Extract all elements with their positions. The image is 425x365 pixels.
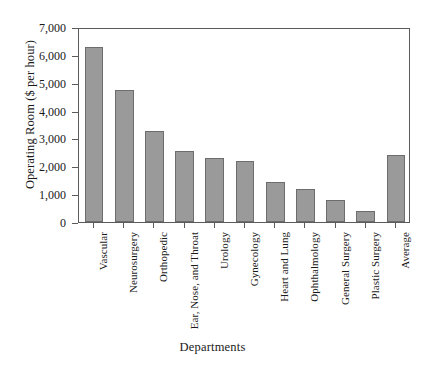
x-axis-tick-label: Plastic Surgery <box>369 232 381 352</box>
x-axis-tick-mark <box>365 223 366 228</box>
y-axis-tick: 1,000 <box>0 195 78 196</box>
y-axis-tick-label: 1,000 <box>0 188 66 203</box>
y-axis-tick-label: 7,000 <box>0 21 66 36</box>
x-axis-tick-mark <box>153 223 154 228</box>
x-axis-tick-label: Neurosurgery <box>127 232 139 352</box>
y-axis-tick-label: 4,000 <box>0 104 66 119</box>
x-axis-tick-mark <box>335 223 336 228</box>
x-axis-tick-mark <box>244 223 245 228</box>
y-axis-tick-label: 0 <box>0 216 66 231</box>
y-axis-tick: 5,000 <box>0 84 78 85</box>
y-axis-tick: 7,000 <box>0 28 78 29</box>
x-axis-tick-label: Average <box>399 232 411 352</box>
bar <box>387 155 406 222</box>
x-axis-tick-label: Orthopedic <box>157 232 169 352</box>
y-axis-tick-label: 3,000 <box>0 132 66 147</box>
x-axis-tick-mark <box>304 223 305 228</box>
y-axis-tick-label: 5,000 <box>0 76 66 91</box>
bar <box>205 158 224 222</box>
bars-container <box>79 29 409 222</box>
y-axis-tick: 0 <box>0 223 78 224</box>
x-axis-tick-mark <box>395 223 396 228</box>
x-axis-tick-label: Ophthalmology <box>308 232 320 352</box>
x-axis-tick-label: Heart and Lung <box>278 232 290 352</box>
y-axis-tick-label: 6,000 <box>0 48 66 63</box>
x-axis-tick-label: Vascular <box>97 232 109 352</box>
x-axis-tick-label: Ear, Nose, and Throat <box>188 232 200 352</box>
bar <box>236 161 255 222</box>
x-axis-title: Departments <box>0 340 425 355</box>
bar <box>326 200 345 222</box>
bar <box>115 90 134 222</box>
bar <box>266 182 285 222</box>
y-axis-tick: 4,000 <box>0 112 78 113</box>
y-axis-tick-mark <box>72 223 78 224</box>
bar-chart-figure: Operating Room ($ per hour) 01,0002,0003… <box>0 0 425 365</box>
x-axis-tick-mark <box>184 223 185 228</box>
bar <box>175 151 194 222</box>
x-axis-tick-label: Gynecology <box>248 232 260 352</box>
y-axis-tick: 2,000 <box>0 167 78 168</box>
y-axis-tick-label: 2,000 <box>0 160 66 175</box>
bar <box>356 211 375 222</box>
bar <box>296 189 315 222</box>
plot-area <box>78 28 410 223</box>
x-axis-tick-mark <box>93 223 94 228</box>
x-axis-tick-mark <box>274 223 275 228</box>
x-axis-tick-label: Urology <box>218 232 230 352</box>
bar <box>145 131 164 222</box>
y-axis-tick: 6,000 <box>0 56 78 57</box>
y-axis-tick: 3,000 <box>0 139 78 140</box>
x-axis-tick-mark <box>214 223 215 228</box>
x-axis-tick-mark <box>123 223 124 228</box>
bar <box>85 47 104 223</box>
x-axis-tick-label: General Surgery <box>339 232 351 352</box>
